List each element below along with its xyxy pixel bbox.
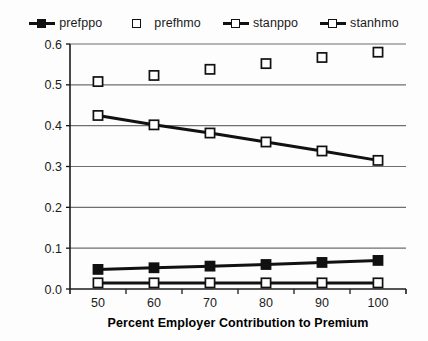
series-line bbox=[98, 115, 378, 160]
x-tick-label: 90 bbox=[315, 296, 329, 310]
y-tick-label: 0.1 bbox=[45, 242, 62, 256]
data-point-marker bbox=[317, 278, 326, 287]
data-point-marker bbox=[373, 48, 382, 57]
y-tick-label: 0.3 bbox=[45, 160, 62, 174]
y-tick-label: 0.0 bbox=[45, 283, 62, 297]
series-stanppo bbox=[93, 111, 382, 165]
plot-svg: 0.00.10.20.30.40.50.6 5060708090100 bbox=[0, 0, 428, 341]
x-tick-label: 70 bbox=[203, 296, 217, 310]
series-prefhmo bbox=[93, 48, 382, 87]
x-tick-label: 60 bbox=[147, 296, 161, 310]
data-point-marker bbox=[149, 263, 158, 272]
data-point-marker bbox=[261, 278, 270, 287]
data-point-marker bbox=[261, 137, 270, 146]
y-tick-label: 0.6 bbox=[45, 38, 62, 52]
series-line bbox=[98, 260, 378, 269]
data-point-marker bbox=[317, 146, 326, 155]
series-stanhmo bbox=[93, 278, 382, 287]
data-point-marker bbox=[373, 156, 382, 165]
y-tick-label: 0.4 bbox=[45, 119, 62, 133]
data-series bbox=[93, 48, 382, 288]
x-tick-labels: 5060708090100 bbox=[91, 296, 388, 310]
x-tick-label: 50 bbox=[91, 296, 105, 310]
data-point-marker bbox=[373, 256, 382, 265]
data-point-marker bbox=[261, 260, 270, 269]
y-tick-labels: 0.00.10.20.30.40.50.6 bbox=[45, 38, 62, 297]
series-prefppo bbox=[93, 256, 382, 274]
data-point-marker bbox=[373, 278, 382, 287]
data-point-marker bbox=[149, 71, 158, 80]
data-point-marker bbox=[149, 278, 158, 287]
data-point-marker bbox=[93, 111, 102, 120]
data-point-marker bbox=[317, 53, 326, 62]
axis-lines bbox=[66, 44, 406, 294]
plot-area: 0.00.10.20.30.40.50.6 5060708090100 bbox=[0, 0, 428, 341]
x-tick-label: 80 bbox=[259, 296, 273, 310]
data-point-marker bbox=[261, 59, 270, 68]
x-tick-label: 100 bbox=[368, 296, 389, 310]
data-point-marker bbox=[149, 120, 158, 129]
data-point-marker bbox=[93, 77, 102, 86]
chart-figure: prefppo prefhmo stanppo stanhmo Predicte… bbox=[0, 0, 428, 341]
data-point-marker bbox=[205, 128, 214, 137]
data-point-marker bbox=[205, 278, 214, 287]
grid-lines bbox=[70, 44, 406, 248]
y-tick-label: 0.5 bbox=[45, 78, 62, 92]
data-point-marker bbox=[317, 258, 326, 267]
y-tick-label: 0.2 bbox=[45, 201, 62, 215]
data-point-marker bbox=[93, 278, 102, 287]
data-point-marker bbox=[205, 262, 214, 271]
data-point-marker bbox=[93, 265, 102, 274]
data-point-marker bbox=[205, 65, 214, 74]
